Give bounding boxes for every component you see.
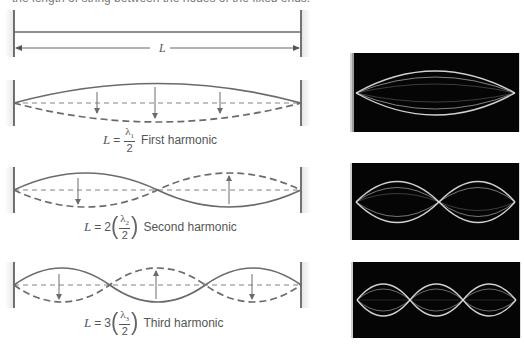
standing-wave-photo-2 bbox=[350, 163, 520, 240]
formula-denominator: 2 bbox=[122, 229, 128, 241]
standing-wave-photo-1 bbox=[350, 53, 520, 132]
formula-equals: = bbox=[113, 133, 120, 147]
second-harmonic-diagram bbox=[5, 167, 311, 213]
formula-denominator: 2 bbox=[122, 325, 128, 337]
left-paren: ( bbox=[111, 216, 118, 239]
first-harmonic-formula: L = λ1 2 First harmonic bbox=[103, 126, 217, 154]
formula-fraction: λ2 2 bbox=[119, 213, 130, 241]
formula-equals: = bbox=[94, 220, 101, 234]
formula-equals: = bbox=[94, 316, 101, 330]
harmonic-label: Third harmonic bbox=[143, 316, 223, 330]
formula-L: L bbox=[84, 315, 91, 331]
third-harmonic-formula: L = 3 ( λ3 2 ) Third harmonic bbox=[84, 309, 223, 337]
first-harmonic-diagram bbox=[5, 80, 311, 126]
dimension-label-L: L bbox=[155, 41, 170, 56]
formula-coefficient: 2 bbox=[104, 220, 111, 234]
left-paren: ( bbox=[111, 312, 118, 335]
third-harmonic-diagram bbox=[5, 262, 311, 308]
lambda-subscript: 3 bbox=[126, 315, 130, 323]
standing-wave-photo-3 bbox=[351, 262, 521, 338]
harmonic-label: First harmonic bbox=[141, 133, 217, 147]
right-paren: ) bbox=[131, 312, 138, 335]
formula-fraction: λ3 2 bbox=[119, 309, 130, 337]
formula-L: L bbox=[103, 132, 110, 148]
lambda-subscript: 1 bbox=[131, 132, 135, 140]
harmonic-label: Second harmonic bbox=[143, 220, 236, 234]
right-paren: ) bbox=[131, 216, 138, 239]
second-harmonic-formula: L = 2 ( λ2 2 ) Second harmonic bbox=[84, 213, 237, 241]
formula-denominator: 2 bbox=[127, 142, 133, 154]
lambda-subscript: 2 bbox=[126, 219, 130, 227]
formula-coefficient: 3 bbox=[104, 316, 111, 330]
formula-fraction: λ1 2 bbox=[124, 126, 135, 154]
formula-L: L bbox=[84, 219, 91, 235]
